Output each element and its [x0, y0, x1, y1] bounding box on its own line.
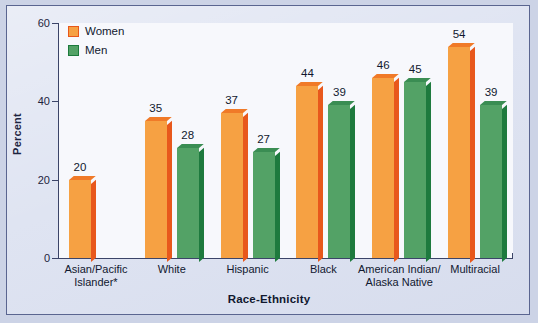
legend-item-women[interactable]: Women — [68, 25, 124, 37]
bar-women-6: 54 — [448, 47, 470, 259]
bar-top-3d — [69, 176, 96, 180]
legend-item-men[interactable]: Men — [68, 44, 124, 56]
bar-value-label: 44 — [301, 67, 314, 79]
bar-face — [372, 78, 394, 258]
bar-face — [177, 148, 199, 258]
bar-side-3d — [426, 82, 431, 262]
bar-side-3d — [167, 121, 172, 262]
y-tick-label-60: 60 — [20, 18, 50, 29]
bar-side-3d — [199, 148, 204, 262]
y-axis-top-cap — [58, 23, 59, 29]
bar-face — [328, 105, 350, 258]
bar-value-label: 27 — [257, 133, 270, 145]
bar-top-3d — [253, 148, 280, 152]
bar-value-label: 35 — [149, 102, 162, 114]
bar-face — [404, 82, 426, 258]
x-axis-line — [58, 258, 513, 259]
chart-figure: 60 40 20 0 Percent Women Men 20352837274… — [0, 0, 538, 323]
bar-men-4: 39 — [328, 105, 350, 258]
bar-value-label: 54 — [453, 28, 466, 40]
category-label-line: Alaska Native — [353, 276, 445, 289]
legend-label-women: Women — [85, 25, 124, 37]
x-axis-end-cap — [512, 253, 513, 259]
bar-top-3d — [145, 117, 172, 121]
bar-value-label: 28 — [181, 129, 194, 141]
bar-top-3d — [404, 78, 431, 82]
bar-men-2: 28 — [177, 148, 199, 258]
bar-value-label: 37 — [225, 94, 238, 106]
bar-women-5: 46 — [372, 78, 394, 258]
category-label-line: Islander* — [50, 276, 142, 289]
women-swatch-icon — [68, 26, 79, 37]
bar-top-3d — [221, 109, 248, 113]
bar-face — [145, 121, 167, 258]
bar-value-label: 39 — [333, 86, 346, 98]
bar-side-3d — [243, 113, 248, 262]
bar-side-3d — [91, 179, 96, 262]
bar-top-3d — [448, 43, 475, 47]
bar-women-4: 44 — [296, 86, 318, 258]
bar-side-3d — [318, 85, 323, 262]
y-tick-label-40: 40 — [20, 96, 50, 107]
y-axis-title: Percent — [11, 99, 23, 169]
bar-men-3: 27 — [253, 152, 275, 258]
bar-women-3: 37 — [221, 113, 243, 258]
bar-face — [69, 180, 91, 258]
legend-label-men: Men — [85, 44, 107, 56]
y-tick-60 — [52, 23, 58, 24]
bar-face — [480, 105, 502, 258]
y-tick-20 — [52, 180, 58, 181]
bar-women-2: 35 — [145, 121, 167, 258]
bar-men-6: 39 — [480, 105, 502, 258]
bar-side-3d — [275, 152, 280, 262]
bar-face — [296, 86, 318, 258]
bar-side-3d — [350, 105, 355, 262]
y-axis-line — [58, 23, 59, 259]
plot-area — [58, 23, 513, 259]
bar-face — [448, 47, 470, 259]
chart-legend: Women Men — [68, 25, 124, 63]
bar-value-label: 45 — [409, 63, 422, 75]
bar-women-1: 20 — [69, 180, 91, 258]
category-label-line: Multiracial — [429, 263, 521, 276]
bar-value-label: 39 — [485, 86, 498, 98]
bar-value-label: 20 — [74, 161, 87, 173]
bar-value-label: 46 — [377, 59, 390, 71]
y-tick-0 — [52, 258, 58, 259]
y-tick-40 — [52, 101, 58, 102]
bar-side-3d — [502, 105, 507, 262]
bar-side-3d — [394, 78, 399, 262]
bar-face — [253, 152, 275, 258]
y-tick-label-0: 0 — [20, 253, 50, 264]
category-label-6: Multiracial — [429, 263, 521, 276]
men-swatch-icon — [68, 45, 79, 56]
x-axis-title: Race-Ethnicity — [0, 293, 538, 305]
bar-face — [221, 113, 243, 258]
bar-side-3d — [470, 46, 475, 262]
y-tick-label-20: 20 — [20, 175, 50, 186]
bar-men-5: 45 — [404, 82, 426, 258]
